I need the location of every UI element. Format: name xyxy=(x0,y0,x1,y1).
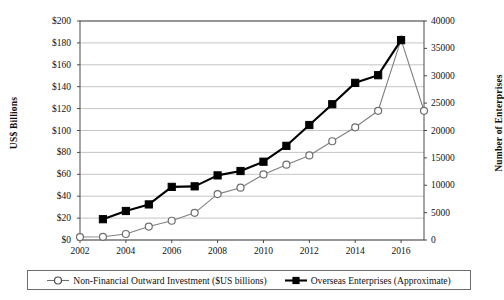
series-line xyxy=(80,40,424,237)
data-point-square xyxy=(214,172,221,179)
data-point-circle xyxy=(214,191,221,198)
legend-entry-1: Non-Financial Outward Investment ($US bi… xyxy=(47,275,266,286)
data-point-square xyxy=(145,201,152,208)
data-point-square xyxy=(260,158,267,165)
chart-legend: Non-Financial Outward Investment ($US bi… xyxy=(27,270,471,290)
data-point-circle xyxy=(145,223,152,230)
legend-label: Non-Financial Outward Investment ($US bi… xyxy=(73,275,266,286)
data-point-square xyxy=(168,183,175,190)
data-point-square xyxy=(237,167,244,174)
data-point-circle xyxy=(375,107,382,114)
data-point-square xyxy=(122,207,129,214)
data-point-square xyxy=(283,142,290,149)
legend-filled-square-icon xyxy=(285,275,307,286)
data-point-circle xyxy=(122,230,129,237)
data-point-square xyxy=(397,37,404,44)
data-point-circle xyxy=(168,217,175,224)
data-point-circle xyxy=(306,152,313,159)
legend-entry-2: Overseas Enterprises (Approximate) xyxy=(285,275,451,286)
legend-label: Overseas Enterprises (Approximate) xyxy=(311,275,451,286)
data-point-square xyxy=(191,183,198,190)
data-point-circle xyxy=(329,138,336,145)
data-point-square xyxy=(306,121,313,128)
data-point-square xyxy=(375,72,382,79)
data-point-circle xyxy=(260,171,267,178)
data-point-square xyxy=(352,79,359,86)
data-point-circle xyxy=(191,209,198,216)
data-point-circle xyxy=(421,107,428,114)
data-point-circle xyxy=(99,233,106,240)
data-point-square xyxy=(99,216,106,223)
legend-open-circle-icon xyxy=(47,275,69,286)
data-point-square xyxy=(329,101,336,108)
data-point-circle xyxy=(352,124,359,131)
data-point-circle xyxy=(237,184,244,191)
data-point-circle xyxy=(283,161,290,168)
data-point-circle xyxy=(77,234,84,241)
